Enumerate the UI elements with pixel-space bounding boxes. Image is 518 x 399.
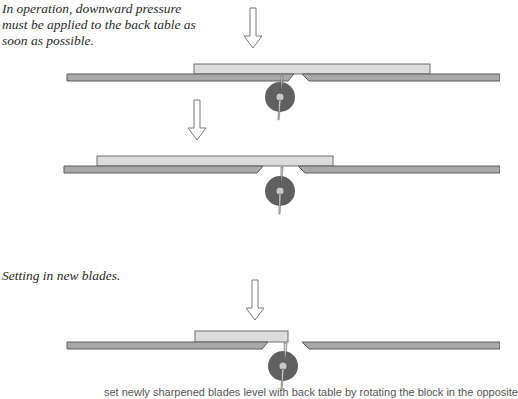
down-arrow-icon [188,100,206,140]
infeed-table [67,74,294,81]
cutterhead-icon [265,167,295,214]
workpiece-board [97,156,333,166]
outfeed-table [302,74,500,81]
cutterhead-icon [268,343,298,390]
workpiece-board [194,64,430,74]
outfeed-table [302,342,500,349]
diagram-operation-2 [64,100,500,214]
diagram-setting-blades [67,280,500,390]
down-arrow-icon [244,8,262,48]
infeed-table [64,166,263,173]
workpiece-board [195,331,288,342]
down-arrow-icon [246,280,264,320]
diagram-operation-1 [67,8,500,120]
infeed-table [67,342,268,349]
outfeed-table [298,166,500,173]
cutterhead-icon [265,76,295,120]
